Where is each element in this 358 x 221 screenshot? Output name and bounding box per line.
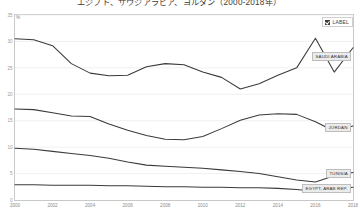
y-tick-label: 20 xyxy=(7,92,13,97)
y-tick-label: 0 xyxy=(10,198,13,203)
series-lines-group xyxy=(15,38,353,191)
gridlines-group xyxy=(15,15,353,174)
x-tick-label: 2004 xyxy=(85,203,96,208)
chart-root: エジプト、サウジアラビア、ヨルダン（2000-2018年） % LABEL 05… xyxy=(0,0,358,221)
x-tick-label: 2000 xyxy=(10,203,21,208)
y-tick-label: 25 xyxy=(7,66,13,71)
x-tick-label: 2002 xyxy=(47,203,58,208)
series-line-saudi-arabia xyxy=(15,38,353,89)
y-tick-labels-group: 05101520253035 xyxy=(7,13,13,203)
y-tick-label: 30 xyxy=(7,39,13,44)
x-tick-label: 2016 xyxy=(310,203,321,208)
y-tick-label: 5 xyxy=(10,171,13,176)
x-tick-label: 2012 xyxy=(235,203,246,208)
x-tick-label: 2006 xyxy=(123,203,134,208)
series-flag-jordan[interactable]: JORDAN xyxy=(325,123,351,132)
x-tick-label: 2008 xyxy=(160,203,171,208)
series-flag-saudi-arabia[interactable]: SAUDI ARABIA xyxy=(312,52,351,61)
series-line-jordan xyxy=(15,109,353,140)
y-tick-label: 10 xyxy=(7,145,13,150)
x-tick-label: 2018 xyxy=(348,203,358,208)
x-tick-labels-group: 2000200220042006200820102012201420162018 xyxy=(10,203,358,208)
series-line-tunisia xyxy=(15,148,353,182)
series-flag-egypt-arab-rep[interactable]: EGYPT, ARAB REP. xyxy=(302,184,351,193)
y-tick-label: 35 xyxy=(7,13,13,18)
series-flag-tunisia[interactable]: TUNISIA xyxy=(326,169,351,178)
y-tick-label: 15 xyxy=(7,118,13,123)
x-tick-label: 2010 xyxy=(198,203,209,208)
x-tick-label: 2014 xyxy=(273,203,284,208)
